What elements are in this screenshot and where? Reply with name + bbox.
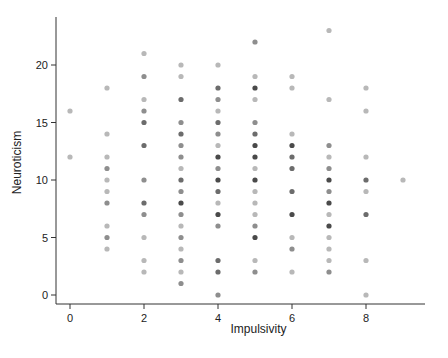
data-point (215, 258, 220, 263)
data-point (252, 74, 257, 79)
data-point (363, 108, 368, 113)
data-point (326, 177, 331, 182)
data-point (215, 223, 220, 228)
data-point (289, 154, 294, 159)
data-point (289, 131, 294, 136)
data-point (252, 200, 257, 205)
data-point (178, 154, 183, 159)
data-point (141, 177, 146, 182)
data-point (326, 97, 331, 102)
data-point (141, 235, 146, 240)
data-point (141, 269, 146, 274)
y-tick-label: 10 (36, 174, 48, 186)
points-layer (67, 28, 405, 298)
data-point (215, 120, 220, 125)
x-tick-label: 4 (215, 312, 221, 324)
data-point (178, 143, 183, 148)
y-tick-label: 0 (42, 289, 48, 301)
data-point (215, 292, 220, 297)
data-point (252, 154, 257, 159)
data-point (215, 143, 220, 148)
data-point (215, 108, 220, 113)
scatter-chart: 02468 05101520 Impulsivity Neuroticism (0, 0, 448, 358)
data-point (141, 74, 146, 79)
data-point (215, 97, 220, 102)
data-point (67, 154, 72, 159)
x-axis-ticks: 02468 (67, 304, 369, 324)
data-point (178, 131, 183, 136)
data-point (104, 177, 109, 182)
data-point (252, 189, 257, 194)
data-point (363, 212, 368, 217)
data-point (252, 212, 257, 217)
data-point (252, 97, 257, 102)
data-point (178, 281, 183, 286)
data-point (104, 189, 109, 194)
data-point (178, 120, 183, 125)
data-point (178, 269, 183, 274)
data-point (104, 166, 109, 171)
data-point (252, 143, 257, 148)
data-point (363, 189, 368, 194)
data-point (104, 85, 109, 90)
data-point (252, 39, 257, 44)
data-point (104, 235, 109, 240)
data-point (363, 85, 368, 90)
data-point (289, 212, 294, 217)
data-point (363, 292, 368, 297)
data-point (363, 177, 368, 182)
data-point (289, 74, 294, 79)
data-point (252, 235, 257, 240)
data-point (363, 258, 368, 263)
data-point (326, 154, 331, 159)
data-point (104, 154, 109, 159)
data-point (326, 258, 331, 263)
data-point (67, 108, 72, 113)
data-point (215, 269, 220, 274)
data-point (326, 189, 331, 194)
data-point (141, 212, 146, 217)
data-point (178, 74, 183, 79)
data-point (141, 120, 146, 125)
data-point (215, 200, 220, 205)
y-tick-label: 20 (36, 59, 48, 71)
data-point (141, 258, 146, 263)
data-point (326, 200, 331, 205)
data-point (363, 154, 368, 159)
data-point (104, 131, 109, 136)
data-point (178, 177, 183, 182)
data-point (178, 223, 183, 228)
x-axis-label: Impulsivity (230, 322, 286, 336)
data-point (215, 177, 220, 182)
data-point (141, 108, 146, 113)
data-point (289, 189, 294, 194)
x-tick-label: 2 (141, 312, 147, 324)
data-point (178, 97, 183, 102)
data-point (178, 166, 183, 171)
data-point (400, 177, 405, 182)
data-point (215, 212, 220, 217)
data-point (178, 246, 183, 251)
data-point (252, 269, 257, 274)
data-point (215, 154, 220, 159)
data-point (326, 235, 331, 240)
data-point (289, 246, 294, 251)
data-point (326, 212, 331, 217)
data-point (141, 97, 146, 102)
data-point (289, 269, 294, 274)
data-point (252, 258, 257, 263)
data-point (178, 189, 183, 194)
y-axis-label: Neuroticism (10, 131, 24, 194)
data-point (289, 143, 294, 148)
data-point (104, 200, 109, 205)
data-point (252, 166, 257, 171)
y-axis-ticks: 05101520 (36, 59, 56, 301)
y-tick-label: 15 (36, 117, 48, 129)
data-point (252, 223, 257, 228)
data-point (178, 62, 183, 67)
data-point (326, 28, 331, 33)
data-point (141, 51, 146, 56)
data-point (289, 235, 294, 240)
data-point (326, 246, 331, 251)
x-tick-label: 8 (363, 312, 369, 324)
